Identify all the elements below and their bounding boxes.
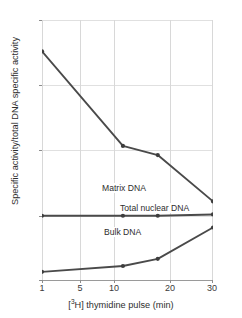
x-axis-title: [3H] thymidine pulse (min) <box>0 298 242 310</box>
data-point <box>156 153 160 157</box>
x-tick-label-10: 10 <box>103 284 125 293</box>
data-point <box>211 212 213 216</box>
data-point <box>42 214 44 218</box>
data-series-layer <box>42 20 213 281</box>
data-point <box>156 257 160 261</box>
chart-figure: 4.0 3.0 2.0 1.0 0 Matrix DNA T <box>0 0 242 318</box>
series-line-matrix-dna <box>42 51 213 201</box>
data-point <box>121 214 125 218</box>
data-point <box>156 214 160 218</box>
x-tick-label-1: 1 <box>31 284 53 293</box>
data-point <box>121 144 125 148</box>
x-axis-title-rest: H] thymidine pulse (min) <box>75 300 174 310</box>
y-axis-title: Specific activity/total DNA specific act… <box>10 6 20 236</box>
x-tick-label-30: 30 <box>201 284 223 293</box>
series-label-bulk-dna: Bulk DNA <box>102 227 143 237</box>
data-point <box>121 264 125 268</box>
data-point <box>42 270 44 274</box>
series-label-matrix-dna: Matrix DNA <box>100 183 148 193</box>
series-line-total-nuclear-dna <box>42 214 213 215</box>
x-tick-label-5: 5 <box>69 284 91 293</box>
series-label-total-nuclear-dna: Total nuclear DNA <box>118 203 191 213</box>
x-tick-label-20: 20 <box>159 284 181 293</box>
